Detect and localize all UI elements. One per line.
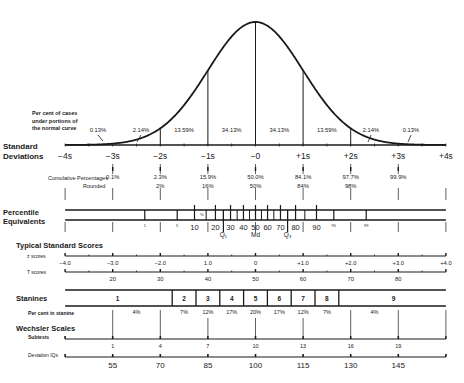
t-score-label: 20 bbox=[109, 276, 115, 282]
z-score-label: 1.0 bbox=[204, 260, 212, 266]
percentile-tick-label: 60 bbox=[263, 223, 271, 232]
stanine-number: 7 bbox=[301, 295, 305, 302]
sd-tick-label: −0 bbox=[251, 151, 261, 161]
normal-curve-diagram: Per cent of casesunder portions ofthe no… bbox=[0, 0, 464, 383]
curve-caption: under portions of bbox=[32, 118, 78, 124]
curve-percent-label: 2.14% bbox=[363, 127, 379, 133]
sd-tick-label: +3s bbox=[391, 151, 405, 161]
cumulative-value: 15.9% bbox=[200, 174, 216, 180]
t-score-label: 50 bbox=[252, 276, 258, 282]
t-score-label: 60 bbox=[300, 276, 306, 282]
cumulative-value: 2.3% bbox=[154, 174, 167, 180]
subtest-label: 1 bbox=[111, 343, 114, 349]
stanine-number: 3 bbox=[206, 295, 210, 302]
pointer-arrow bbox=[408, 135, 411, 142]
curve-percent-label: 2.14% bbox=[133, 127, 149, 133]
rounded-value: 2% bbox=[156, 183, 164, 189]
cumulative-value: 50.0% bbox=[247, 174, 263, 180]
stanine-percent: 4% bbox=[133, 309, 141, 315]
deviation-iq-label: 100 bbox=[249, 361, 263, 370]
sd-tick-label: −1s bbox=[201, 151, 215, 161]
percentile-inner-mark: % bbox=[200, 212, 204, 217]
curve-percent-label: 13.59% bbox=[317, 127, 337, 133]
sd-tick-label: +4s bbox=[439, 151, 453, 161]
percentile-tick-label: 80 bbox=[291, 223, 299, 232]
stanines-row: Stanines14%27%312%417%520%617%712%87%94%… bbox=[16, 290, 446, 336]
stanine-number: 6 bbox=[277, 295, 281, 302]
deviation-iq-label: 115 bbox=[297, 361, 310, 370]
t-score-label: 30 bbox=[157, 276, 163, 282]
cumulative-value: 84.1% bbox=[295, 174, 311, 180]
percentile-equivalents-bar: PercentileEquivalents1510203040506070809… bbox=[3, 205, 446, 239]
subtest-label: 10 bbox=[252, 343, 258, 349]
quartile-label: Md bbox=[251, 231, 260, 238]
percentile-tick-label: 5 bbox=[176, 223, 179, 228]
quartile-label: Q₃ bbox=[284, 231, 292, 239]
wechsler-scales: Wechsler ScalesSubtestsDeviation IQs1471… bbox=[16, 324, 446, 370]
curve-percent-label: 0.13% bbox=[90, 127, 106, 133]
deviation-iq-label: 85 bbox=[203, 361, 212, 370]
deviation-iq-label: 145 bbox=[392, 361, 406, 370]
pointer-arrow bbox=[98, 135, 103, 141]
curve-caption: Per cent of cases bbox=[32, 110, 77, 116]
percentile-tick-label: 10 bbox=[190, 223, 198, 232]
cumulative-percentages-row: Cumulative PercentagesRounded0.1%2.3%2%1… bbox=[48, 167, 407, 189]
curve-percent-label: 13.59% bbox=[174, 127, 194, 133]
cumulative-value: 99.9% bbox=[390, 174, 406, 180]
deviation-iq-label: 70 bbox=[156, 361, 165, 370]
deviation-iq-label: 130 bbox=[344, 361, 358, 370]
stanine-number: 9 bbox=[392, 295, 396, 302]
cumulative-value: 97.7% bbox=[342, 174, 358, 180]
subtest-label: 19 bbox=[395, 343, 401, 349]
stanine-number: 1 bbox=[116, 295, 120, 302]
subtest-label: 4 bbox=[159, 343, 162, 349]
percentile-title: Equivalents bbox=[3, 217, 45, 226]
z-score-label: −2.0 bbox=[155, 260, 166, 266]
percentile-tick-label: 30 bbox=[226, 223, 234, 232]
t-score-label: 40 bbox=[205, 276, 211, 282]
t-score-label: 80 bbox=[395, 276, 401, 282]
stanine-percent: 17% bbox=[226, 309, 237, 315]
sd-tick-label: +1s bbox=[296, 151, 310, 161]
percentile-tick-label: 20 bbox=[211, 223, 219, 232]
z-score-label: +4.0 bbox=[440, 260, 451, 266]
stanine-percent: 12% bbox=[298, 309, 309, 315]
z-scores-title: z scores bbox=[27, 253, 46, 259]
curve-percent-label: 34.13% bbox=[222, 127, 242, 133]
percentile-tick-label: 99 bbox=[364, 223, 369, 228]
stanine-percent: 20% bbox=[250, 309, 261, 315]
rounded-value: 84% bbox=[297, 183, 309, 189]
rounded-value: 16% bbox=[202, 183, 214, 189]
stanines-title: Stanines bbox=[16, 294, 47, 303]
deviation-iq-label: 55 bbox=[108, 361, 117, 370]
z-score-label: −3.0 bbox=[107, 260, 118, 266]
curve-percent-label: 0.13% bbox=[403, 127, 419, 133]
rounded-value: 50% bbox=[250, 183, 262, 189]
t-scores-title: T scores bbox=[27, 269, 47, 275]
percent-in-stanine-title: Per cent in stanine bbox=[28, 310, 74, 316]
sd-axis-title: Standard bbox=[3, 142, 38, 151]
percentile-tick-label: 90 bbox=[312, 223, 320, 232]
stanine-percent: 12% bbox=[202, 309, 213, 315]
typical-scores-title: Typical Standard Scores bbox=[16, 241, 103, 250]
curve-percent-label: 34.13% bbox=[269, 127, 289, 133]
rounded-title: Rounded bbox=[83, 183, 105, 189]
percentile-tick-label: 95 bbox=[332, 223, 337, 228]
percentile-tick-label: 40 bbox=[239, 223, 247, 232]
rounded-value: 98% bbox=[345, 183, 357, 189]
normal-curve: Per cent of casesunder portions ofthe no… bbox=[32, 22, 446, 145]
stanine-percent: 17% bbox=[274, 309, 285, 315]
z-score-label: +1.0 bbox=[297, 260, 308, 266]
sd-tick-label: −4s bbox=[58, 151, 72, 161]
percentile-tick-label: 1 bbox=[144, 223, 147, 228]
stanine-number: 4 bbox=[230, 295, 234, 302]
percentile-title: Percentile bbox=[3, 208, 39, 217]
subtest-label: 16 bbox=[348, 343, 354, 349]
sd-tick-label: −3s bbox=[106, 151, 120, 161]
standard-deviations-axis: StandardDeviations−4s−3s−2s−1s−0+1s+2s+3… bbox=[3, 142, 453, 161]
cumulative-value: 0.1% bbox=[106, 174, 119, 180]
z-score-label: +2.0 bbox=[345, 260, 356, 266]
typical-standard-scores: Typical Standard Scoresz scoresT scores−… bbox=[16, 241, 452, 282]
stanine-number: 2 bbox=[182, 295, 186, 302]
sd-axis-title: Deviations bbox=[3, 152, 44, 161]
